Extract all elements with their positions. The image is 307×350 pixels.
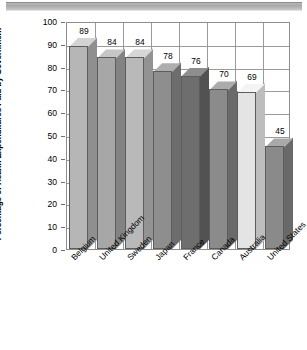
bar-value-label: 84 [98,38,126,47]
y-axis-tick-mark [61,45,65,46]
y-axis-tick-label: 90 [35,41,57,49]
bar-front-face [153,71,172,249]
bar [237,92,256,249]
bar-front-face [209,89,228,249]
y-axis-tick-mark [61,68,65,69]
bar [97,57,116,249]
y-axis-tick-label: 50 [35,132,57,140]
y-axis-tick-label: 70 [35,86,57,94]
y-axis-title: Percentage of Health Expenditures Paid b… [0,18,8,250]
y-axis-tick-label: 20 [35,200,57,208]
bar-front-face [69,46,88,249]
top-decorative-rule [6,2,302,11]
bar-value-label: 45 [266,127,294,136]
bar [265,146,284,249]
bar-side-face [228,80,237,249]
y-axis-tick-label: 10 [35,223,57,231]
bar-side-face [116,48,125,249]
y-axis-tick-label: 0 [35,246,57,254]
bar-value-label: 76 [182,57,210,66]
bar-front-face [181,76,200,249]
bar-value-label: 89 [70,27,98,36]
bar-front-face [237,92,256,249]
y-axis-tick-mark [61,22,65,23]
bar-side-face [172,62,181,249]
bar [181,76,200,249]
bar [153,71,172,249]
y-axis-tick-label: 80 [35,64,57,72]
y-axis-tick-label: 30 [35,178,57,186]
bar-front-face [265,146,284,249]
bar-value-label: 84 [126,38,154,47]
bar-value-label: 69 [238,73,266,82]
bar [69,46,88,249]
y-axis-tick-label: 40 [35,155,57,163]
y-axis-tick-mark [61,136,65,137]
y-axis-tick-mark [61,113,65,114]
bar-side-face [88,37,97,249]
bar-front-face [97,57,116,249]
y-axis-tick-mark [61,159,65,160]
bar-value-label: 70 [210,70,238,79]
y-axis-tick-mark [61,227,65,228]
bar-value-label: 78 [154,52,182,61]
y-axis-tick-label: 60 [35,109,57,117]
y-axis-tick-label: 100 [35,18,57,26]
y-axis-tick-mark [61,90,65,91]
bar-side-face [256,83,265,249]
y-axis-tick-mark [61,182,65,183]
y-axis-tick-mark [61,250,65,251]
bar-side-face [200,67,209,249]
y-axis-tick-mark [61,204,65,205]
chart-figure: Percentage of Health Expenditures Paid b… [0,0,307,350]
bar [209,89,228,249]
